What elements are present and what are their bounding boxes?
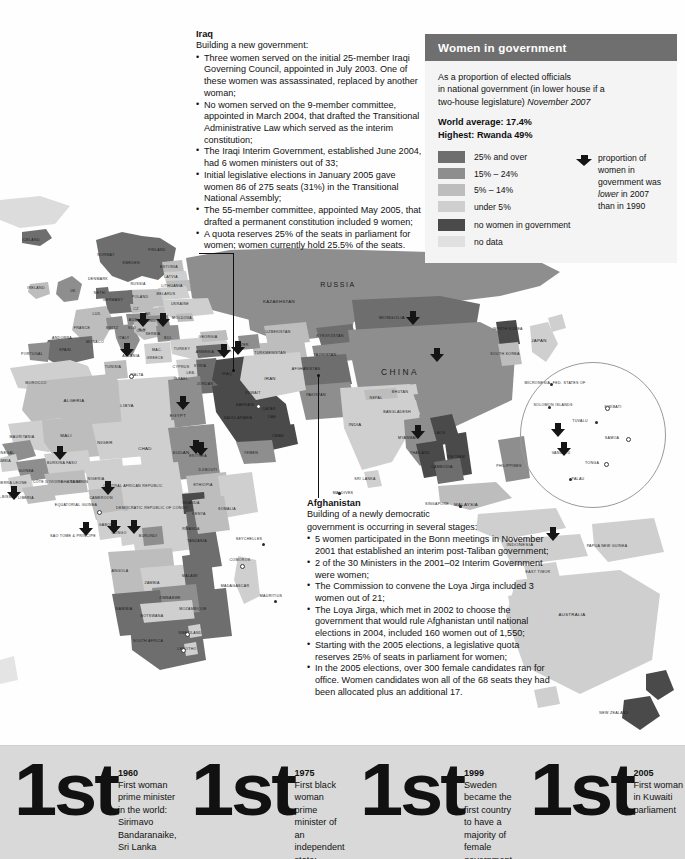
infographic-page: ICELANDIRELANDUKNORWAYSWEDENFINLANDDENMA… xyxy=(0,0,685,859)
iraq-lead: Building a new government: xyxy=(196,40,424,52)
arrow-note-line5: than in 1990 xyxy=(598,201,645,211)
fact-text: 1975 First black woman prime minister of… xyxy=(295,757,347,859)
iraq-bullet: The Iraqi Interim Government, establishe… xyxy=(196,146,424,169)
legend-columns: 25% and over 15% – 24% 5% – 14% und xyxy=(438,151,665,217)
equatorial-guinea-dot xyxy=(97,510,102,515)
legend-body: As a proportion of elected officials in … xyxy=(425,61,677,263)
fact-year: 1999 xyxy=(464,768,516,778)
seychelles-dot xyxy=(262,543,265,546)
legend-swatch-label: no women in government xyxy=(474,220,571,230)
fact-description: First woman prime minister in the world:… xyxy=(118,779,177,854)
decline-arrow-icon xyxy=(576,155,592,217)
afghanistan-bullet: The Loya Jirga, which met in 2002 to cho… xyxy=(307,605,555,640)
fact-description: First black woman prime minister of an i… xyxy=(295,779,347,859)
mauritius-dot xyxy=(274,600,277,603)
first-fact-2005: 1st 2005 First woman in Kuwaiti parliame… xyxy=(516,746,685,859)
afghanistan-bullet: In the 2005 elections, over 300 female c… xyxy=(307,663,555,698)
ordinal-1st: 1st xyxy=(14,757,117,822)
legend-swatch-row: 25% and over xyxy=(438,151,576,164)
afghanistan-title: Afghanistan xyxy=(307,498,555,508)
iraq-bullet-list: Three women served on the initial 25-mem… xyxy=(196,53,424,252)
tuvalu-dot xyxy=(595,421,598,424)
legend-swatch-15-24 xyxy=(438,168,465,180)
iraq-bullet: Initial legislative elections in January… xyxy=(196,170,424,205)
arrow-note-line1: proportion of xyxy=(598,153,646,163)
fact-description: First woman in Kuwaiti parliament xyxy=(634,779,685,816)
vanuatu-dot xyxy=(561,447,566,452)
samoa-dot xyxy=(626,437,631,442)
legend-swatch-row: 5% – 14% xyxy=(438,184,576,197)
legend-swatch-label: 25% and over xyxy=(474,152,527,162)
arrow-note-tail: in 2007 xyxy=(619,189,650,199)
lesotho-dot xyxy=(181,648,186,653)
legend-swatch-label: 15% – 24% xyxy=(474,169,518,179)
iraq-bullet: A quota reserves 25% of the seats in par… xyxy=(196,229,424,252)
legend-highest: Highest: Rwanda 49% xyxy=(438,129,665,142)
legend-arrow-note-text: proportion of women in government was lo… xyxy=(598,152,661,217)
afghanistan-bullet: Starting with the 2005 elections, a legi… xyxy=(307,640,555,663)
arrow-note-line2: women in xyxy=(598,165,635,175)
legend-swatch-label: under 5% xyxy=(474,202,511,212)
legend-swatch-no-women xyxy=(438,219,465,231)
legend-swatch-5-14 xyxy=(438,184,465,196)
legend-statistics: World average: 17.4% Highest: Rwanda 49% xyxy=(438,116,665,142)
fact-text: 1999 Sweden became the first country to … xyxy=(464,757,516,859)
palau-dot xyxy=(569,478,572,481)
legend-swatch-column: 25% and over 15% – 24% 5% – 14% und xyxy=(438,151,576,217)
iraq-bullet: The 55-member committee, appointed May 2… xyxy=(196,205,424,228)
micronesia-dot xyxy=(550,383,553,386)
firsts-timeline-bar: 1st 1960 First woman prime minister in t… xyxy=(0,745,685,859)
comoros-dot xyxy=(240,564,245,569)
legend-desc-line3: two-house legislature) xyxy=(438,97,527,107)
iraq-bullet: No women served on the 9-member committe… xyxy=(196,100,424,147)
legend-arrow-note: proportion of women in government was lo… xyxy=(576,151,665,217)
afghanistan-callout: Afghanistan Building of a newly democrat… xyxy=(307,498,555,699)
kiribati-dot xyxy=(605,406,610,411)
legend-desc-line2: in national government (in lower house i… xyxy=(438,84,605,94)
legend-swatch-row: no women in government xyxy=(438,219,665,232)
legend-panel: Women in government As a proportion of e… xyxy=(425,34,677,263)
afghanistan-lead-2: government is occurring in several stage… xyxy=(307,522,555,534)
fact-year: 1960 xyxy=(118,768,177,778)
iraq-leader-vertical xyxy=(233,253,234,371)
afghanistan-lead-1: Building of a newly democratic xyxy=(307,509,555,521)
iraq-leader-horizontal xyxy=(199,253,234,254)
legend-swatch-row: no data xyxy=(438,235,665,248)
afghanistan-bullet: 5 women participated in the Bonn meeting… xyxy=(307,534,555,557)
malta-dot xyxy=(129,374,134,379)
legend-swatch-25-and-over xyxy=(438,151,465,163)
fact-description: Sweden became the first country to have … xyxy=(464,779,516,859)
solomon-islands-dot xyxy=(548,406,551,409)
fact-text: 2005 First woman in Kuwaiti parliament xyxy=(634,757,685,816)
first-fact-1975: 1st 1975 First black woman prime ministe… xyxy=(177,746,346,859)
legend-title: Women in government xyxy=(425,34,677,61)
tonga-dot xyxy=(604,462,609,467)
iraq-bullet: Three women served on the initial 25-mem… xyxy=(196,53,424,100)
first-fact-1960: 1st 1960 First woman prime minister in t… xyxy=(0,746,177,859)
bahrain-dot xyxy=(256,404,261,409)
maldives-dot xyxy=(338,492,341,495)
iraq-callout: Iraq Building a new government: Three wo… xyxy=(196,29,424,252)
arrow-note-line3: government was xyxy=(598,177,661,187)
arrow-note-lower: lower xyxy=(598,189,619,199)
legend-swatch-no-data xyxy=(438,236,465,248)
pacific-inset-circle xyxy=(520,362,666,508)
legend-swatch-row: 15% – 24% xyxy=(438,167,576,180)
legend-description: As a proportion of elected officials in … xyxy=(438,71,665,108)
ordinal-1st: 1st xyxy=(530,757,633,822)
iraq-title: Iraq xyxy=(196,29,424,39)
afghanistan-bullet: 2 of the 30 Ministers in the 2001–02 Int… xyxy=(307,558,555,581)
ordinal-1st: 1st xyxy=(360,757,463,822)
fact-year: 2005 xyxy=(634,768,685,778)
fact-year: 1975 xyxy=(295,768,347,778)
swaziland-dot xyxy=(185,632,190,637)
afghanistan-bullet: The Commission to convene the Loya Jirga… xyxy=(307,581,555,604)
first-fact-1999: 1st 1999 Sweden became the first country… xyxy=(346,746,515,859)
legend-swatch-label: 5% – 14% xyxy=(474,185,513,195)
afghanistan-leader-vertical xyxy=(318,376,319,498)
world-map: ICELANDIRELANDUKNORWAYSWEDENFINLANDDENMA… xyxy=(0,0,685,745)
iraq-leader-endpoint xyxy=(232,369,235,372)
legend-desc-line1: As a proportion of elected officials xyxy=(438,72,571,82)
legend-swatch-label: no data xyxy=(474,237,503,247)
fact-text: 1960 First woman prime minister in the w… xyxy=(118,757,177,854)
